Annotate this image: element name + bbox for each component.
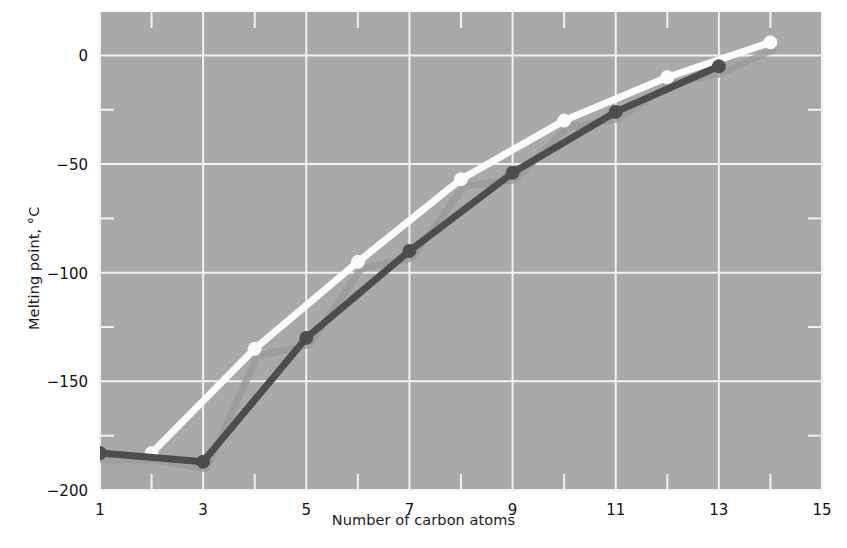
data-point	[94, 447, 107, 460]
y-tick-label: −100	[47, 265, 88, 283]
x-axis-title: Number of carbon atoms	[0, 512, 847, 528]
data-point	[506, 166, 519, 179]
melting-point-line-chart: 0−50−100−150−20013579111315	[0, 0, 847, 548]
y-axis-title: Melting point, °C	[26, 207, 42, 330]
data-point	[764, 36, 777, 49]
plot-area-background	[100, 12, 822, 490]
data-point	[712, 60, 725, 73]
y-tick-label: −50	[56, 156, 88, 174]
chart-figure: 0−50−100−150−20013579111315 Melting poin…	[0, 0, 847, 548]
data-point	[609, 105, 622, 118]
data-point	[351, 255, 364, 268]
data-point	[300, 331, 313, 344]
y-tick-label: −200	[47, 482, 88, 500]
y-tick-label: 0	[78, 47, 88, 65]
data-point	[197, 455, 210, 468]
data-point	[558, 114, 571, 127]
y-tick-label: −150	[47, 373, 88, 391]
data-point	[661, 71, 674, 84]
data-point	[248, 342, 261, 355]
data-point	[455, 173, 468, 186]
data-point	[403, 245, 416, 258]
